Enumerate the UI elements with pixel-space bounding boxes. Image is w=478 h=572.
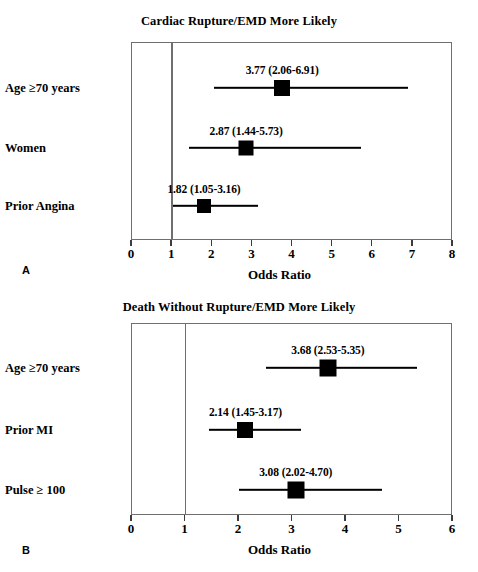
odds-ratio-marker: [239, 141, 254, 156]
row-label: Age ≥70 years: [5, 361, 131, 376]
panel-b-axis-title: Odds Ratio: [248, 542, 311, 558]
x-axis-tick-label: 6: [369, 246, 376, 262]
x-axis-tick-label: 5: [395, 521, 402, 537]
x-axis-tick-label: 5: [328, 246, 335, 262]
x-axis-tick-label: 1: [168, 246, 175, 262]
odds-ratio-marker: [274, 80, 290, 96]
odds-ratio-marker: [237, 422, 253, 438]
row-label: Women: [5, 141, 131, 156]
x-axis-tick-label: 8: [449, 246, 456, 262]
value-annotation: 2.14 (1.45-3.17): [209, 406, 282, 418]
x-axis-tick-label: 2: [235, 521, 242, 537]
x-axis-tick-label: 1: [181, 521, 188, 537]
panel-b-title: Death Without Rupture/EMD More Likely: [0, 300, 478, 315]
x-axis-tick-label: 3: [248, 246, 255, 262]
confidence-interval-line: [173, 205, 258, 207]
confidence-interval-line: [266, 367, 417, 369]
x-axis-tick-label: 0: [128, 521, 135, 537]
panel-b-reference-line: [185, 324, 187, 514]
forest-plot-panel-a: Cardiac Rupture/EMD More Likely Age ≥70 …: [0, 0, 478, 290]
panel-a-letter: A: [22, 264, 30, 276]
row-label: Prior MI: [5, 423, 131, 438]
odds-ratio-marker: [319, 360, 336, 377]
confidence-interval-line: [214, 87, 409, 89]
panel-b-letter: B: [22, 544, 30, 556]
value-annotation: 1.82 (1.05-3.16): [167, 183, 240, 195]
x-axis-tick-label: 7: [409, 246, 416, 262]
panel-a-reference-line: [171, 43, 173, 239]
x-axis-tick-label: 6: [449, 521, 456, 537]
odds-ratio-marker: [197, 199, 211, 213]
forest-plot-panel-b: Death Without Rupture/EMD More Likely Ag…: [0, 290, 478, 572]
odds-ratio-marker: [287, 482, 304, 499]
panel-a-title: Cardiac Rupture/EMD More Likely: [0, 14, 478, 29]
value-annotation: 3.77 (2.06-6.91): [246, 64, 319, 76]
row-label: Pulse ≥ 100: [5, 483, 131, 498]
x-axis-tick-label: 4: [288, 246, 295, 262]
x-axis-tick-label: 0: [128, 246, 135, 262]
confidence-interval-line: [189, 147, 361, 149]
value-annotation: 2.87 (1.44-5.73): [210, 125, 283, 137]
panel-a-axis-title: Odds Ratio: [248, 267, 311, 283]
confidence-interval-line: [239, 489, 382, 491]
confidence-interval-line: [209, 429, 301, 431]
x-axis-tick-label: 2: [208, 246, 215, 262]
row-label: Prior Angina: [5, 199, 131, 214]
value-annotation: 3.68 (2.53-5.35): [291, 344, 364, 356]
x-axis-tick-label: 3: [288, 521, 295, 537]
value-annotation: 3.08 (2.02-4.70): [259, 466, 332, 478]
row-label: Age ≥70 years: [5, 81, 131, 96]
x-axis-tick-label: 4: [342, 521, 349, 537]
